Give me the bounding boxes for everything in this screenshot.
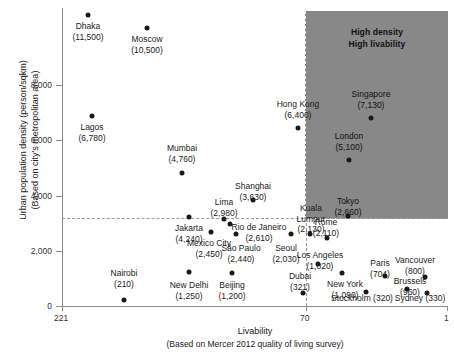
- data-point-sao-paulo[interactable]: [234, 232, 239, 237]
- city-density-value: (2,450): [196, 249, 223, 259]
- city-density-value: (321): [290, 282, 310, 292]
- data-point-jakarta[interactable]: [187, 215, 192, 220]
- y-tick-6000: [56, 140, 62, 141]
- city-name: Shanghai: [235, 181, 271, 191]
- city-name: Dhaka: [76, 21, 101, 31]
- city-name: Dubai: [289, 271, 311, 281]
- data-point-lagos[interactable]: [90, 114, 95, 119]
- city-density-value: (2,030): [273, 254, 300, 264]
- city-density-value: (704): [370, 269, 390, 279]
- data-label-tokyo: Tokyo(2,660): [335, 196, 362, 217]
- city-name: Vancouver: [395, 255, 435, 265]
- city-density-value: (2,610): [246, 233, 273, 243]
- data-point-singapore[interactable]: [369, 116, 374, 121]
- data-label-stockholm: Stockholm (320): [331, 293, 393, 304]
- x-tick-label-70: 70: [300, 313, 309, 323]
- data-label-seoul: Seoul(2,030): [273, 243, 300, 264]
- x-tick-221: [62, 306, 63, 311]
- city-name: Nairobi: [111, 268, 138, 278]
- data-label-beijing: Beijing(1,200): [219, 280, 246, 301]
- city-density-value: (6,780): [79, 133, 106, 143]
- y-tick-label-2000: 2,000: [0, 246, 52, 256]
- city-name: Lima: [215, 197, 233, 207]
- data-label-nairobi: Nairobi(210): [111, 268, 138, 289]
- y-tick-label-8000: 8,000: [0, 80, 52, 90]
- x-axis-title-main: Livability: [238, 326, 273, 336]
- data-label-london: London(5,100): [335, 131, 363, 152]
- data-point-nairobi[interactable]: [122, 298, 127, 303]
- city-name: Rio de Janeiro: [232, 222, 287, 232]
- city-density-value: (2,980): [211, 208, 238, 218]
- y-tick-label-4000: 4,000: [0, 191, 52, 201]
- data-point-hong-kong[interactable]: [296, 126, 301, 131]
- city-density-value: (2,660): [335, 207, 362, 217]
- x-tick-label-221: 221: [54, 313, 68, 323]
- city-density-value: (5,100): [336, 142, 363, 152]
- data-label-sydney: Sydney (330): [395, 293, 446, 304]
- data-label-dhaka: Dhaka(11,500): [72, 21, 103, 42]
- data-point-mexico-city[interactable]: [209, 230, 214, 235]
- city-name: Kuala: [300, 203, 322, 213]
- data-label-dubai: Dubai(321): [289, 271, 311, 292]
- x-tick-70: [306, 306, 307, 311]
- x-axis-title: Livability (Based on Mercer 2012 quality…: [62, 325, 448, 351]
- data-point-london[interactable]: [347, 158, 352, 163]
- data-label-lima: Lima(2,980): [211, 197, 238, 218]
- city-name: Singapore: [352, 89, 391, 99]
- city-name: London: [335, 131, 363, 141]
- city-density-value: (2,440): [228, 254, 255, 264]
- city-name: New Delhi: [170, 280, 209, 290]
- x-tick-1: [447, 306, 448, 311]
- y-tick-label-0: 0: [0, 301, 52, 311]
- y-tick-label-6000: 6,000: [0, 135, 52, 145]
- data-point-new-york[interactable]: [340, 271, 345, 276]
- city-name: Seoul: [275, 243, 297, 253]
- data-label-rome: Rome(2,110): [313, 217, 339, 238]
- city-name: São Paulo: [221, 243, 260, 253]
- density-threshold-line: [62, 218, 448, 219]
- data-point-seoul[interactable]: [289, 232, 294, 237]
- city-density-value: (3,630): [240, 192, 267, 202]
- city-density-value: (11,500): [72, 32, 103, 42]
- data-point-mumbai[interactable]: [180, 171, 185, 176]
- city-name: Brussels: [394, 276, 427, 286]
- city-density-value: (1,250): [176, 291, 203, 301]
- city-name: Moscow: [131, 34, 162, 44]
- city-name: Rome: [315, 217, 338, 227]
- data-label-lagos: Lagos(6,780): [79, 122, 106, 143]
- data-label-hong-kong: Hong Kong(6,400): [277, 99, 320, 120]
- highlight-region-caption: High density High livability: [322, 26, 432, 50]
- city-name: Los Angeles: [297, 250, 343, 260]
- city-density-value: (10,500): [131, 45, 163, 55]
- city-density-value: (1,200): [219, 291, 246, 301]
- city-name: Jakarta: [175, 223, 203, 233]
- city-name: Tokyo: [337, 196, 359, 206]
- data-label-singapore: Singapore(7,130): [352, 89, 391, 110]
- data-label-los-angeles: Los Angeles(1,020): [297, 250, 343, 271]
- city-name: Paris: [370, 258, 389, 268]
- data-label-paris: Paris(704): [370, 258, 390, 279]
- city-name: Hong Kong: [277, 99, 320, 109]
- city-density-value: (800): [405, 266, 425, 276]
- highlight-line-1: High density: [351, 27, 403, 37]
- data-point-moscow[interactable]: [145, 26, 150, 31]
- highlight-line-2: High livability: [349, 39, 406, 49]
- data-label-vancouver: Vancouver(800): [395, 255, 435, 276]
- city-density-value: (7,130): [358, 100, 385, 110]
- city-name: Mumbai: [167, 143, 197, 153]
- data-label-mumbai: Mumbai(4,760): [167, 143, 197, 164]
- data-label-shanghai: Shanghai(3,630): [235, 181, 271, 202]
- data-label-new-delhi: New Delhi(1,250): [170, 280, 209, 301]
- data-point-new-delhi[interactable]: [187, 270, 192, 275]
- x-axis-title-sub: (Based on Mercer 2012 quality of living …: [166, 339, 343, 349]
- data-point-beijing[interactable]: [230, 271, 235, 276]
- y-tick-8000: [56, 85, 62, 86]
- y-axis-line: [62, 8, 63, 307]
- data-label-rio-de-janeiro: Rio de Janeiro(2,610): [232, 222, 287, 243]
- y-tick-4000: [56, 196, 62, 197]
- city-density-value: (2,110): [313, 228, 339, 238]
- scatter-chart: Urban population density (person/sqkm) (…: [0, 0, 454, 354]
- data-label-sao-paulo: São Paulo(2,440): [221, 243, 260, 264]
- data-point-dhaka[interactable]: [86, 13, 91, 18]
- city-density-value: (6,400): [285, 110, 312, 120]
